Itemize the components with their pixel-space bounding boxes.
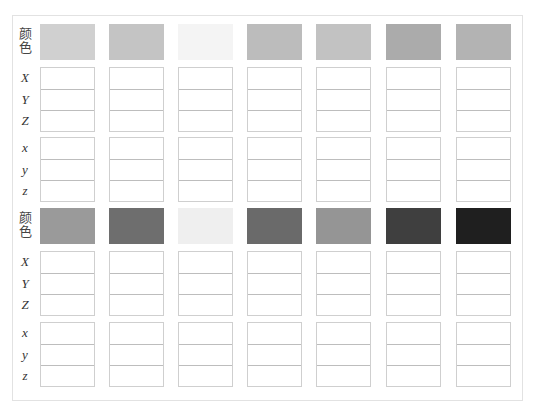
value-cell[interactable] bbox=[457, 160, 510, 181]
value-cell[interactable] bbox=[457, 366, 510, 386]
value-cell[interactable] bbox=[179, 366, 232, 386]
color-swatch bbox=[247, 24, 302, 60]
value-cell[interactable] bbox=[457, 181, 510, 201]
value-cell[interactable] bbox=[317, 366, 370, 386]
xyz-entry-box bbox=[316, 137, 371, 202]
value-cell[interactable] bbox=[248, 160, 301, 181]
value-cell[interactable] bbox=[110, 111, 163, 131]
value-cell[interactable] bbox=[317, 111, 370, 131]
value-cell[interactable] bbox=[317, 90, 370, 111]
value-cell[interactable] bbox=[110, 138, 163, 160]
value-cell[interactable] bbox=[457, 68, 510, 90]
value-cell[interactable] bbox=[387, 252, 440, 274]
value-cell[interactable] bbox=[179, 345, 232, 366]
value-cell[interactable] bbox=[457, 90, 510, 111]
value-cell[interactable] bbox=[317, 181, 370, 201]
value-cell[interactable] bbox=[179, 323, 232, 345]
value-cell[interactable] bbox=[248, 252, 301, 274]
value-cell[interactable] bbox=[179, 252, 232, 274]
value-cell[interactable] bbox=[41, 252, 94, 274]
value-cell[interactable] bbox=[387, 345, 440, 366]
value-cell[interactable] bbox=[110, 252, 163, 274]
value-cell[interactable] bbox=[457, 111, 510, 131]
value-cell[interactable] bbox=[457, 345, 510, 366]
value-cell[interactable] bbox=[248, 90, 301, 111]
value-cell[interactable] bbox=[41, 181, 94, 201]
value-cell[interactable] bbox=[179, 274, 232, 295]
value-cell[interactable] bbox=[179, 111, 232, 131]
value-cell[interactable] bbox=[387, 68, 440, 90]
value-cell[interactable] bbox=[317, 274, 370, 295]
value-cell[interactable] bbox=[110, 295, 163, 315]
value-cell[interactable] bbox=[457, 323, 510, 345]
color-swatch bbox=[109, 24, 164, 60]
XYZ-entry-box bbox=[386, 251, 441, 316]
value-cell[interactable] bbox=[387, 160, 440, 181]
value-cell[interactable] bbox=[387, 366, 440, 386]
value-cell[interactable] bbox=[41, 138, 94, 160]
value-cell[interactable] bbox=[179, 90, 232, 111]
color-swatch bbox=[40, 208, 95, 244]
value-cell[interactable] bbox=[457, 138, 510, 160]
value-cell[interactable] bbox=[248, 68, 301, 90]
value-cell[interactable] bbox=[248, 323, 301, 345]
value-cell[interactable] bbox=[110, 181, 163, 201]
value-cell[interactable] bbox=[317, 252, 370, 274]
value-cell[interactable] bbox=[41, 323, 94, 345]
value-cell[interactable] bbox=[41, 111, 94, 131]
value-cell[interactable] bbox=[41, 366, 94, 386]
XYZ-entry-box bbox=[40, 251, 95, 316]
value-cell[interactable] bbox=[317, 160, 370, 181]
value-cell[interactable] bbox=[248, 181, 301, 201]
value-cell[interactable] bbox=[317, 68, 370, 90]
value-cell[interactable] bbox=[179, 68, 232, 90]
value-cell[interactable] bbox=[179, 295, 232, 315]
value-cell[interactable] bbox=[317, 323, 370, 345]
value-cell[interactable] bbox=[248, 366, 301, 386]
value-cell[interactable] bbox=[387, 90, 440, 111]
value-cell[interactable] bbox=[110, 323, 163, 345]
value-cell[interactable] bbox=[41, 295, 94, 315]
xyz-entry-box bbox=[40, 322, 95, 387]
value-cell[interactable] bbox=[387, 111, 440, 131]
value-cell[interactable] bbox=[248, 345, 301, 366]
value-cell[interactable] bbox=[387, 323, 440, 345]
value-cell[interactable] bbox=[317, 345, 370, 366]
value-cell[interactable] bbox=[110, 68, 163, 90]
value-cell[interactable] bbox=[110, 345, 163, 366]
value-cell[interactable] bbox=[179, 160, 232, 181]
value-cell[interactable] bbox=[110, 90, 163, 111]
xyz-entry-box bbox=[316, 322, 371, 387]
value-cell[interactable] bbox=[41, 345, 94, 366]
value-cell[interactable] bbox=[387, 274, 440, 295]
value-cell[interactable] bbox=[387, 295, 440, 315]
XYZ-entry-box bbox=[40, 67, 95, 132]
XYZ-entry-box bbox=[109, 251, 164, 316]
value-cell[interactable] bbox=[41, 274, 94, 295]
value-cell[interactable] bbox=[317, 295, 370, 315]
value-cell[interactable] bbox=[110, 366, 163, 386]
value-cell[interactable] bbox=[457, 274, 510, 295]
value-cell[interactable] bbox=[179, 138, 232, 160]
value-cell[interactable] bbox=[110, 274, 163, 295]
xyz-entry-box bbox=[247, 137, 302, 202]
axis-label-upper-2: Z bbox=[14, 298, 36, 312]
color-swatch bbox=[456, 24, 511, 60]
value-cell[interactable] bbox=[248, 274, 301, 295]
value-cell[interactable] bbox=[387, 181, 440, 201]
value-cell[interactable] bbox=[41, 68, 94, 90]
value-cell[interactable] bbox=[41, 90, 94, 111]
value-cell[interactable] bbox=[110, 160, 163, 181]
value-cell[interactable] bbox=[457, 252, 510, 274]
value-cell[interactable] bbox=[248, 138, 301, 160]
axis-label-upper-1: Y bbox=[14, 277, 36, 291]
value-cell[interactable] bbox=[248, 111, 301, 131]
XYZ-entry-box bbox=[247, 67, 302, 132]
value-cell[interactable] bbox=[317, 138, 370, 160]
value-cell[interactable] bbox=[248, 295, 301, 315]
value-cell[interactable] bbox=[387, 138, 440, 160]
xyz-entry-box bbox=[247, 322, 302, 387]
value-cell[interactable] bbox=[457, 295, 510, 315]
value-cell[interactable] bbox=[41, 160, 94, 181]
value-cell[interactable] bbox=[179, 181, 232, 201]
